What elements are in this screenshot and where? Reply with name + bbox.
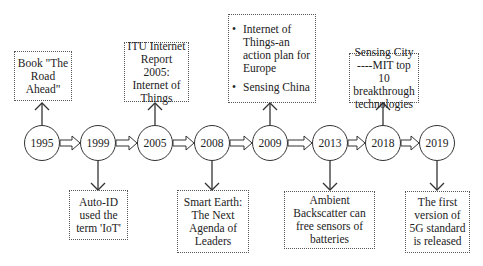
event-item: Sensing China <box>243 81 313 94</box>
year-node-2019: 2019 <box>419 125 455 161</box>
event-box-2008: Smart Earth: The Next Agenda of Leaders <box>177 190 249 253</box>
year-node-1995: 1995 <box>24 125 60 161</box>
event-box-2013: Ambient Backscatter can free sensors of … <box>284 191 375 249</box>
event-box-2009: Internet of Things-an action plan for Eu… <box>228 14 316 103</box>
event-item: Internet of Things-an action plan for Eu… <box>243 23 313 75</box>
iot-timeline-diagram: 1995 1999 2005 2008 2009 2013 2018 2019 … <box>0 0 483 266</box>
year-node-2008: 2008 <box>194 125 230 161</box>
year-node-2013: 2013 <box>312 125 348 161</box>
event-box-1995: Book "The Road Ahead" <box>14 51 72 101</box>
year-node-2018: 2018 <box>365 125 401 161</box>
event-box-2005: ITU Internet Report 2005: Internet of Th… <box>124 42 189 102</box>
event-list-2009: Internet of Things-an action plan for Eu… <box>231 23 313 94</box>
year-node-2009: 2009 <box>252 125 288 161</box>
event-box-2018: Sensing City ----MIT top 10 breakthrough… <box>349 53 419 103</box>
event-box-2019: The first version of 5G standard is rele… <box>405 191 470 253</box>
year-node-1999: 1999 <box>80 125 116 161</box>
event-box-1999: Auto-ID used the term 'IoT' <box>69 190 128 240</box>
year-node-2005: 2005 <box>137 125 173 161</box>
